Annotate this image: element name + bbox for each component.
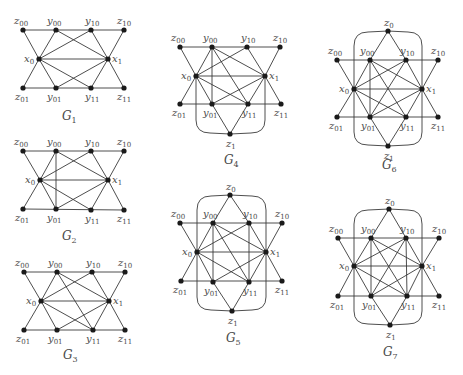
vertex-y01	[210, 279, 215, 284]
curved-edge	[197, 195, 266, 252]
vertex-label-z10: z10	[274, 208, 289, 221]
curved-edge	[354, 266, 422, 325]
vertex-z1	[387, 322, 392, 327]
vertex-label-y10: y10	[399, 45, 415, 58]
vertex-label-y10: y10	[84, 15, 100, 28]
vertex-label-z00: z00	[328, 223, 343, 236]
vertex-label-z10: z10	[430, 45, 445, 58]
vertex-label-z01: z01	[15, 333, 30, 346]
vertex-label-y01: y01	[46, 212, 62, 225]
vertex-x1	[106, 298, 111, 303]
curved-edge	[196, 76, 265, 134]
vertex-label-y00: y00	[46, 15, 62, 28]
vertex-z11	[121, 207, 126, 212]
vertex-label-x0: x0	[25, 174, 35, 187]
vertex-y10	[88, 148, 93, 153]
vertex-label-z00: z00	[13, 15, 28, 28]
graph-caption-g2: G2	[62, 229, 77, 245]
edge-y10-y11	[406, 238, 407, 296]
edge-y00-y11	[212, 47, 248, 104]
vertex-label-z00: z00	[170, 208, 185, 221]
vertex-label-z01: z01	[171, 107, 186, 120]
vertex-label-z11: z11	[273, 107, 288, 120]
vertex-label-y01: y01	[47, 333, 63, 346]
edge-y00-y11	[213, 223, 249, 282]
vertex-label-y10: y10	[85, 257, 101, 270]
vertex-y10	[246, 220, 251, 225]
graph-g4: z00y00y10z10x0x1z01y01y11z11z1G4	[170, 32, 288, 169]
vertex-label-z01: z01	[328, 120, 343, 133]
vertex-label-x0: x0	[339, 83, 349, 96]
vertex-x0	[38, 298, 43, 303]
graph-caption-g6: G6	[382, 158, 397, 174]
vertex-x1	[105, 177, 110, 182]
vertex-y10	[403, 57, 408, 62]
vertex-label-z11: z11	[274, 284, 289, 297]
curved-edge	[354, 209, 422, 266]
edge-x0-y10	[39, 30, 91, 59]
vertex-y10	[403, 235, 408, 240]
graph-caption-g3: G3	[63, 348, 78, 364]
vertex-label-x0: x0	[24, 53, 34, 66]
vertex-x0	[194, 249, 199, 254]
vertex-z00	[177, 44, 182, 49]
vertex-label-z10: z10	[117, 257, 132, 270]
vertex-label-z00: z00	[170, 32, 185, 45]
vertex-y01	[368, 293, 373, 298]
vertex-label-x1: x1	[269, 70, 279, 83]
vertex-label-y11: y11	[400, 299, 416, 312]
vertex-z01	[20, 85, 25, 90]
vertex-label-z0: z0	[383, 17, 394, 30]
vertex-y01	[367, 114, 372, 119]
vertex-z11	[278, 101, 283, 106]
vertex-z11	[122, 327, 127, 332]
vertex-label-z1: z1	[227, 315, 238, 328]
vertex-z01	[21, 327, 26, 332]
vertex-label-y11: y11	[241, 107, 257, 120]
vertex-y01	[53, 206, 58, 211]
vertex-label-x0: x0	[182, 246, 192, 259]
vertex-z10	[436, 235, 441, 240]
vertex-y00	[53, 148, 58, 153]
curved-edge	[197, 252, 266, 311]
vertex-x0	[37, 177, 42, 182]
vertex-label-z01: z01	[172, 284, 187, 297]
graph-figure: z00y00y10z10x0x1z01y01y11z11G1z00y00y10z…	[0, 0, 463, 375]
vertex-y10	[88, 27, 93, 32]
vertex-z11	[121, 85, 126, 90]
vertex-label-z00: z00	[327, 45, 342, 58]
vertex-label-z0: z0	[225, 181, 236, 194]
edge-x0-y11	[40, 180, 91, 210]
vertex-x0	[351, 86, 356, 91]
vertex-label-x0: x0	[26, 295, 36, 308]
vertex-z01	[334, 114, 339, 119]
vertex-label-x1: x1	[270, 246, 280, 259]
vertex-label-z10: z10	[116, 15, 131, 28]
vertex-y10	[89, 269, 94, 274]
vertex-z00	[21, 269, 26, 274]
vertex-z10	[122, 269, 127, 274]
vertex-label-x0: x0	[181, 70, 191, 83]
vertex-label-y00: y00	[46, 136, 62, 149]
vertex-label-y10: y10	[242, 208, 258, 221]
vertex-z01	[177, 101, 182, 106]
graph-caption-g7: G7	[383, 345, 398, 361]
vertex-y00	[368, 235, 373, 240]
graph-caption-g1: G1	[62, 109, 77, 125]
vertex-y01	[54, 327, 59, 332]
vertex-x1	[419, 263, 424, 268]
vertex-label-z1: z1	[385, 329, 396, 342]
vertex-y11	[403, 114, 408, 119]
vertex-label-z1: z1	[225, 138, 236, 151]
vertex-label-z00: z00	[14, 257, 29, 270]
vertex-label-y11: y11	[84, 91, 100, 104]
vertex-y11	[88, 207, 93, 212]
vertex-label-y00: y00	[359, 45, 375, 58]
vertex-label-x1: x1	[426, 83, 436, 96]
vertex-label-y00: y00	[47, 257, 63, 270]
vertex-label-z11: z11	[430, 120, 445, 133]
edge-x1-y00	[213, 223, 266, 252]
vertex-label-y00: y00	[360, 223, 376, 236]
graph-g3: z00y00y10z10x0x1z01y01y11z11G3	[14, 257, 132, 364]
edge-x1-y00	[56, 151, 108, 180]
